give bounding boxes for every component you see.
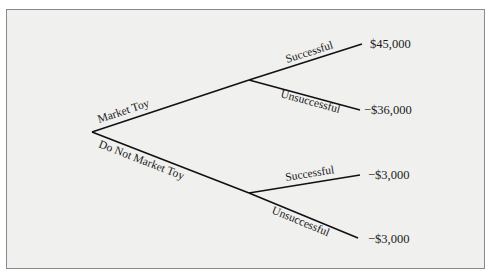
label-do-not-market-toy: Do Not Market Toy bbox=[97, 138, 186, 183]
payoff-market-successful: $45,000 bbox=[370, 37, 411, 51]
label-market-unsuccessful: Unsuccessful bbox=[279, 87, 341, 115]
label-not-market-unsuccessful: Unsuccessful bbox=[270, 204, 331, 238]
payoff-not-market-unsuccessful: −$3,000 bbox=[368, 232, 409, 246]
payoff-not-market-successful: −$3,000 bbox=[368, 168, 409, 182]
payoff-market-unsuccessful: −$36,000 bbox=[364, 103, 412, 117]
edge-do-not-market-toy bbox=[92, 132, 249, 193]
decision-tree: Market Toy Do Not Market Toy Successful … bbox=[0, 0, 493, 274]
